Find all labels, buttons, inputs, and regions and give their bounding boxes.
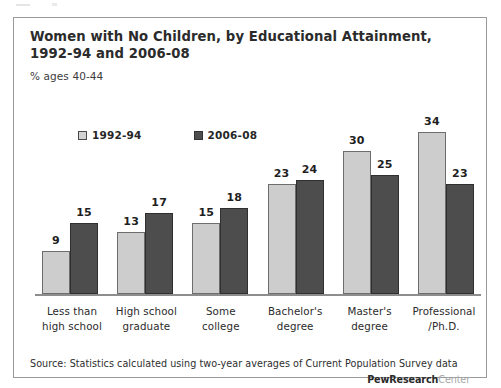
bar[interactable]	[446, 184, 474, 294]
bar[interactable]	[192, 223, 220, 294]
source-note: Source: Statistics calculated using two-…	[30, 358, 458, 369]
scan-artifact-mark	[52, 3, 57, 6]
chart-title: Women with No Children, by Educational A…	[30, 28, 474, 62]
bar-group: 3423	[418, 118, 474, 294]
category-label-line: Master's	[334, 304, 406, 319]
category-label-line: college	[185, 319, 257, 334]
x-axis-category-label: Less thanhigh school	[36, 304, 108, 334]
bar[interactable]	[371, 175, 399, 294]
bar[interactable]	[220, 208, 248, 294]
bar-column[interactable]: 17	[145, 118, 173, 294]
category-label-line: Professional	[408, 304, 480, 319]
bar-group: 1317	[117, 118, 173, 294]
bar-column[interactable]: 15	[70, 118, 98, 294]
bar-column[interactable]: 13	[117, 118, 145, 294]
category-label-line: Bachelor's	[259, 304, 331, 319]
bar-column[interactable]: 23	[446, 118, 474, 294]
bar-value-label: 24	[296, 163, 324, 176]
bar-value-label: 18	[220, 191, 248, 204]
bar[interactable]	[418, 132, 446, 294]
bar[interactable]	[145, 213, 173, 294]
bar-column[interactable]: 23	[268, 118, 296, 294]
bar-groups: 91513171518232430253423	[32, 118, 484, 294]
category-label-line: High school	[110, 304, 182, 319]
bar-column[interactable]: 9	[42, 118, 70, 294]
x-axis-category-label: High schoolgraduate	[110, 304, 182, 334]
x-axis-baseline	[35, 294, 481, 296]
bar-value-label: 15	[192, 206, 220, 219]
x-axis-category-label: Somecollege	[185, 304, 257, 334]
bar-value-label: 9	[42, 234, 70, 247]
bar[interactable]	[296, 180, 324, 294]
bar-value-label: 23	[446, 167, 474, 180]
chart-plot-area: 91513171518232430253423	[32, 118, 484, 296]
chart-figure-frame: Women with No Children, by Educational A…	[13, 17, 487, 378]
category-label-line: Some	[185, 304, 257, 319]
bar-value-label: 30	[343, 134, 371, 147]
x-axis-category-label: Professional/Ph.D.	[408, 304, 480, 334]
x-axis-category-label: Master'sdegree	[334, 304, 406, 334]
category-label-line: high school	[36, 319, 108, 334]
bar[interactable]	[343, 151, 371, 294]
bar-column[interactable]: 15	[192, 118, 220, 294]
x-axis-category-labels: Less thanhigh schoolHigh schoolgraduateS…	[32, 304, 484, 334]
bar-column[interactable]: 18	[220, 118, 248, 294]
brand-name: PewResearch	[367, 374, 438, 385]
x-axis-category-label: Bachelor'sdegree	[259, 304, 331, 334]
bar-value-label: 34	[418, 115, 446, 128]
bar[interactable]	[268, 184, 296, 294]
bar-group: 1518	[192, 118, 248, 294]
category-label-line: degree	[334, 319, 406, 334]
category-label-line: graduate	[110, 319, 182, 334]
pew-research-center-logo: PewResearchCenter	[367, 374, 470, 385]
bar-value-label: 17	[145, 196, 173, 209]
bar-value-label: 13	[117, 215, 145, 228]
bar-group: 3025	[343, 118, 399, 294]
bar[interactable]	[117, 232, 145, 294]
bar[interactable]	[70, 223, 98, 294]
bar-value-label: 15	[70, 206, 98, 219]
bar-column[interactable]: 34	[418, 118, 446, 294]
bar-group: 915	[42, 118, 98, 294]
bar-column[interactable]: 30	[343, 118, 371, 294]
chart-header: Women with No Children, by Educational A…	[30, 28, 474, 82]
bar-value-label: 23	[268, 167, 296, 180]
brand-suffix: Center	[438, 374, 470, 385]
bar-group: 2324	[268, 118, 324, 294]
bar[interactable]	[42, 251, 70, 294]
bar-value-label: 25	[371, 158, 399, 171]
chart-subtitle: % ages 40-44	[30, 70, 474, 82]
category-label-line: /Ph.D.	[408, 319, 480, 334]
bar-column[interactable]: 24	[296, 118, 324, 294]
scan-artifact-mark	[16, 4, 30, 6]
category-label-line: Less than	[36, 304, 108, 319]
bar-column[interactable]: 25	[371, 118, 399, 294]
category-label-line: degree	[259, 319, 331, 334]
